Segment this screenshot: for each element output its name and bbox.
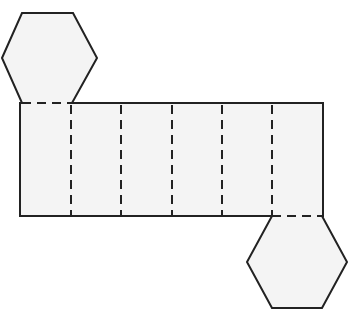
bottom-hexagon-face [247,216,347,308]
top-hexagon-face [2,13,97,103]
hexagonal-prism-net [0,0,352,310]
